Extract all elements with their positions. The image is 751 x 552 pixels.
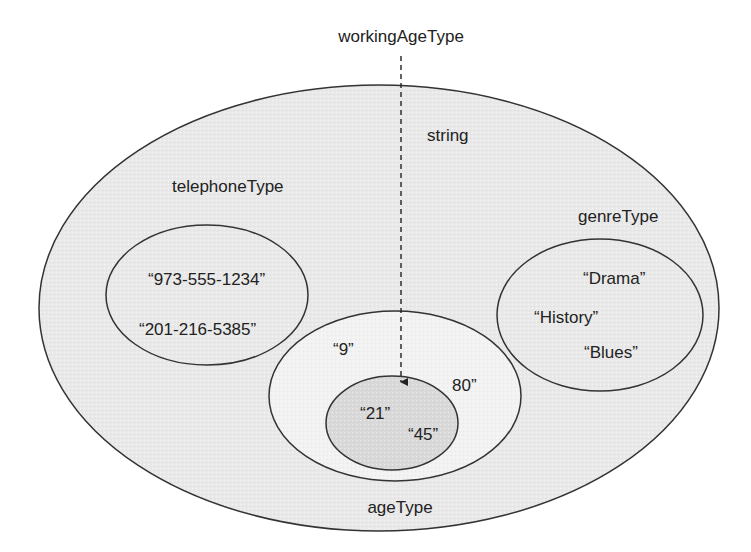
telephone-value: “973-555-1234” bbox=[148, 270, 266, 289]
working-age-value: “21” bbox=[360, 404, 391, 423]
genre-type-label: genreType bbox=[578, 207, 658, 226]
age-type-label: ageType bbox=[367, 498, 432, 517]
genre-value: “Blues” bbox=[584, 343, 638, 362]
telephone-type-label: telephoneType bbox=[172, 177, 284, 196]
telephone-value: “201-216-5385” bbox=[139, 320, 257, 339]
age-value: 80” bbox=[452, 376, 477, 395]
working-age-type-title: workingAgeType bbox=[337, 27, 464, 46]
genre-value: “History” bbox=[534, 308, 599, 327]
genre-type-ellipse bbox=[497, 239, 703, 391]
age-value: “9” bbox=[333, 340, 354, 359]
venn-diagram: workingAgeType string telephoneType genr… bbox=[0, 0, 751, 552]
working-age-type-ellipse bbox=[326, 376, 458, 470]
string-set-label: string bbox=[427, 126, 469, 145]
telephone-type-ellipse bbox=[106, 225, 308, 365]
working-age-value: “45” bbox=[408, 425, 439, 444]
genre-value: “Drama” bbox=[583, 269, 646, 288]
